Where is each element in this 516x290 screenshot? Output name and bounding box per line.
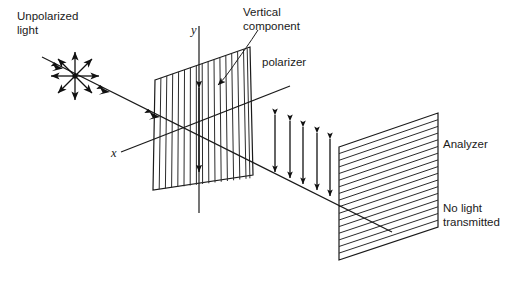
analyzer-label: Analyzer [443,138,488,150]
analyzer-grating-lines [339,120,438,253]
polarizer-label: polarizer [262,56,306,68]
no-light-label-line2: transmitted [443,216,500,228]
unpolarized-light-label-line1: Unpolarized [17,10,78,22]
x-axis [121,86,290,152]
ray-direction-arrowheads [51,62,152,113]
unpolarized-light-burst [51,52,99,100]
incident-ray [42,57,392,232]
polarization-diagram: Unpolarized light Vertical component pol… [0,0,516,290]
ray-arrow-glyphs [52,63,160,119]
analyzer-plate [339,113,438,260]
no-light-label-line1: No light [443,202,483,214]
vertical-component-label-line1: Vertical [243,6,281,18]
polarizer-plate [153,47,253,190]
diagram-canvas: Unpolarized light Vertical component pol… [0,0,516,290]
vertical-component-label-line2: component [243,20,301,32]
polarized-beam-arrows [275,115,330,196]
unpolarized-light-label-line2: light [17,24,39,36]
x-axis-label: x [110,146,117,160]
y-axis-label: y [189,23,197,37]
